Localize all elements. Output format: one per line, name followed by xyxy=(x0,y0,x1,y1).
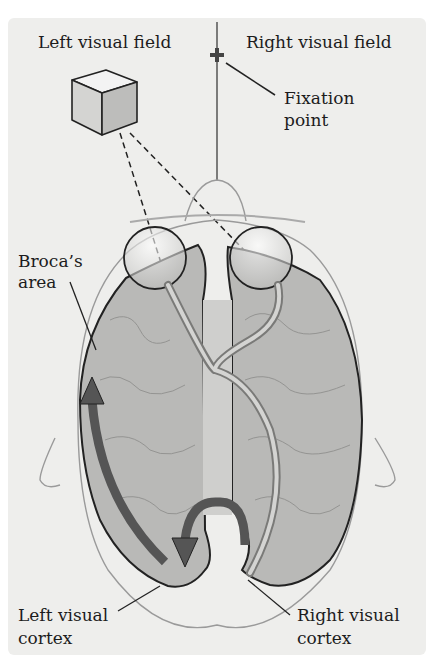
fixation-point-icon xyxy=(210,48,224,62)
broca-label-1: Broca’s xyxy=(18,251,83,271)
left-cortex-label-1: Left visual xyxy=(18,605,108,625)
cube-icon xyxy=(72,70,137,135)
corpus-callosum xyxy=(203,300,232,515)
broca-label-2: area xyxy=(18,272,56,292)
right-cortex-label-2: cortex xyxy=(297,628,351,648)
fixation-point-label-1: Fixation xyxy=(284,88,354,108)
left-visual-field-label: Left visual field xyxy=(38,32,171,52)
broca-leader xyxy=(70,282,96,350)
right-eye xyxy=(230,227,292,289)
left-cortex-label-2: cortex xyxy=(18,628,72,648)
right-visual-field-label: Right visual field xyxy=(246,32,392,52)
left-eye xyxy=(124,227,186,289)
fixation-leader xyxy=(226,63,275,95)
fixation-point-label-2: point xyxy=(284,110,328,130)
forehead-line xyxy=(130,215,305,222)
right-cortex-label-1: Right visual xyxy=(297,605,400,625)
visual-pathway-diagram xyxy=(0,0,434,661)
